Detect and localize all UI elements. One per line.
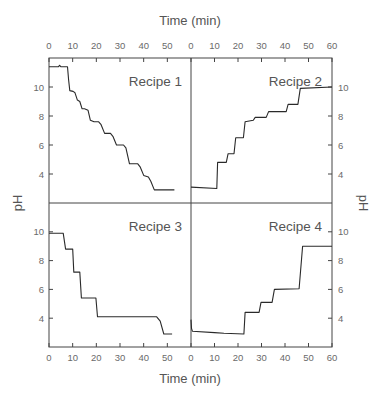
- y-tick-label-left: 6: [39, 284, 44, 295]
- panel-title-recipe-2: Recipe 2: [269, 74, 322, 89]
- x-tick-label-top: 30: [115, 40, 126, 51]
- top-x-axis-title: Time (min): [159, 13, 221, 28]
- y-tick-label-left: 4: [39, 169, 44, 180]
- x-tick-label-top: 60: [327, 40, 338, 51]
- x-tick-label-bottom: 0: [188, 352, 193, 363]
- y-tick-label-left: 4: [39, 313, 44, 324]
- y-tick-label-right: 6: [338, 140, 343, 151]
- x-tick-label-top: 30: [256, 40, 267, 51]
- x-tick-label-bottom: 40: [280, 352, 291, 363]
- x-tick-label-bottom: 20: [91, 352, 102, 363]
- y-tick-label-right: 10: [338, 82, 349, 93]
- y-tick-label-left: 10: [33, 226, 44, 237]
- panel-title-recipe-3: Recipe 3: [129, 219, 182, 234]
- x-tick-label-top: 10: [209, 40, 220, 51]
- x-tick-label-top: 50: [162, 40, 173, 51]
- y-tick-label-left: 8: [39, 111, 44, 122]
- x-tick-label-bottom: 10: [67, 352, 78, 363]
- panel-title-recipe-1: Recipe 1: [129, 74, 182, 89]
- y-tick-label-left: 10: [33, 82, 44, 93]
- y-tick-label-right: 4: [338, 169, 343, 180]
- curve-recipe-4: [191, 246, 332, 334]
- x-tick-label-top: 10: [67, 40, 78, 51]
- x-tick-label-bottom: 30: [256, 352, 267, 363]
- x-tick-label-top: 40: [138, 40, 149, 51]
- curve-recipe-3: [49, 233, 172, 334]
- bottom-x-axis-title: Time (min): [159, 371, 221, 386]
- chart-canvas: 0010102020303040405050001010202030304040…: [0, 0, 388, 399]
- x-tick-label-top: 0: [188, 40, 193, 51]
- y-tick-label-right: 6: [338, 284, 343, 295]
- y-tick-label-right: 8: [338, 255, 343, 266]
- panel-title-recipe-4: Recipe 4: [269, 219, 323, 234]
- x-tick-label-bottom: 50: [162, 352, 173, 363]
- x-tick-label-top: 40: [280, 40, 291, 51]
- x-tick-label-bottom: 0: [46, 352, 51, 363]
- y-tick-label-left: 6: [39, 140, 44, 151]
- x-tick-label-top: 50: [303, 40, 314, 51]
- x-tick-label-bottom: 10: [209, 352, 220, 363]
- y-tick-label-right: 4: [338, 313, 343, 324]
- y-tick-label-right: 10: [338, 226, 349, 237]
- x-tick-label-top: 20: [233, 40, 244, 51]
- left-y-axis-title: pH: [10, 195, 25, 212]
- x-tick-label-bottom: 20: [233, 352, 244, 363]
- y-tick-label-right: 8: [338, 111, 343, 122]
- x-tick-label-top: 0: [46, 40, 51, 51]
- x-tick-label-bottom: 50: [303, 352, 314, 363]
- curve-recipe-2: [191, 87, 332, 189]
- x-tick-label-bottom: 60: [327, 352, 338, 363]
- x-tick-label-bottom: 30: [115, 352, 126, 363]
- x-tick-label-bottom: 40: [138, 352, 149, 363]
- right-y-axis-title: pH: [356, 195, 371, 212]
- y-tick-label-left: 8: [39, 255, 44, 266]
- x-tick-label-top: 20: [91, 40, 102, 51]
